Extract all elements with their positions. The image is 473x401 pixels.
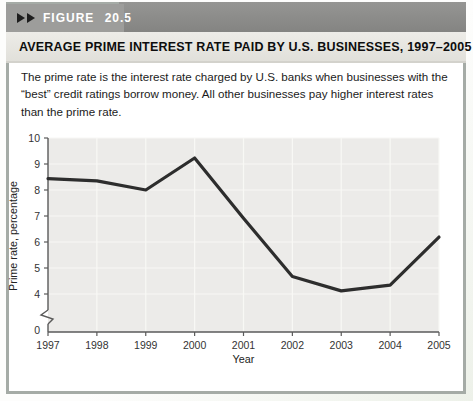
figure-label: FIGURE 20.5 xyxy=(6,4,124,32)
x-tick-label: 2004 xyxy=(378,339,402,351)
x-tick-label: 2001 xyxy=(232,339,256,351)
figure-title: AVERAGE PRIME INTEREST RATE PAID BY U.S.… xyxy=(19,40,472,54)
figure-title-bar: AVERAGE PRIME INTEREST RATE PAID BY U.S.… xyxy=(6,32,466,63)
figure-number: FIGURE 20.5 xyxy=(43,11,132,25)
x-tick-label: 2005 xyxy=(427,339,451,351)
y-tick-label: 7 xyxy=(34,210,40,222)
y-tick-label: 8 xyxy=(34,184,40,196)
y-tick-label: 10 xyxy=(28,132,40,144)
textbook-figure-page: FIGURE 20.5 AVERAGE PRIME INTEREST RATE … xyxy=(0,0,473,401)
y-tick-label: 6 xyxy=(34,236,40,248)
double-chevron-right-icon xyxy=(17,13,35,23)
x-tick-label: 1997 xyxy=(36,339,60,351)
x-axis-title: Year xyxy=(233,353,255,365)
chevron-right-icon xyxy=(17,13,25,23)
figure-description: The prime rate is the interest rate char… xyxy=(21,68,451,120)
y-origin-label: 0 xyxy=(34,324,40,336)
x-tick-label: 2003 xyxy=(330,339,354,351)
figure-header-band xyxy=(119,2,466,32)
y-tick-label: 4 xyxy=(34,288,40,300)
y-tick-label: 9 xyxy=(34,158,40,170)
y-tick-label: 5 xyxy=(34,262,40,274)
chevron-right-icon xyxy=(27,13,35,23)
y-axis-title: Prime rate, percentage xyxy=(7,181,19,291)
x-tick-label: 1999 xyxy=(134,339,158,351)
x-tick-label: 2000 xyxy=(183,339,207,351)
x-tick-label: 2002 xyxy=(281,339,305,351)
x-tick-label: 1998 xyxy=(85,339,109,351)
prime-rate-line-chart: 4567891001997199819992000200120022003200… xyxy=(0,126,473,374)
